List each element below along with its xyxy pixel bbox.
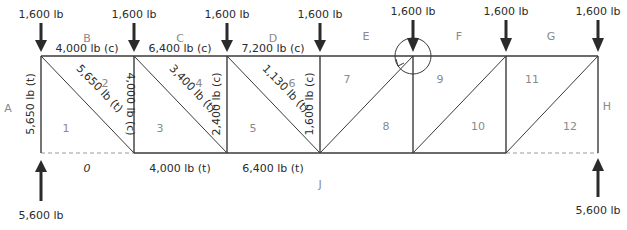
down-arrow-icon (500, 38, 512, 52)
member-force-label: 4,000 lb (c) (55, 42, 118, 55)
load-arrow: 1,600 lb (483, 5, 528, 52)
zone-label: F (456, 30, 462, 43)
member-force-label: 4,000 lb (c) (124, 72, 137, 135)
zone-number: 8 (383, 120, 390, 133)
down-arrow-icon (407, 38, 419, 52)
load-label: 1,600 lb (204, 8, 249, 21)
load-label: 1,600 lb (18, 8, 63, 21)
load-arrow: 1,600 lb (390, 5, 435, 52)
down-arrow-icon (35, 40, 47, 52)
down-arrow-icon (221, 40, 233, 52)
truss-diagram: 1,600 lb 1,600 lb 1,600 lb 1,600 lb 1,60… (0, 0, 627, 230)
load-label: 1,600 lb (483, 5, 528, 18)
load-arrow: 1,600 lb (575, 5, 620, 52)
member-force-label: 6,400 lb (t) (242, 162, 303, 175)
diagonal-member (320, 56, 413, 153)
zone-number: 3 (157, 122, 164, 135)
load-label: 1,600 lb (390, 5, 435, 18)
zone-label: J (317, 178, 321, 191)
diagonal-member (506, 56, 598, 153)
bottom-chord-forces: 0 4,000 lb (t) 6,400 lb (t) (84, 162, 304, 175)
member-force-label: 5,650 lb (t) (74, 62, 126, 115)
load-label: 1,600 lb (111, 8, 156, 21)
zone-label: G (547, 30, 556, 43)
zone-label: A (4, 102, 12, 115)
diagonal-member (413, 56, 506, 153)
zone-number: 12 (563, 120, 577, 133)
reaction-arrow: 5,600 lb (18, 160, 63, 222)
rotation-arrow-icon (396, 59, 404, 66)
zone-number: 11 (525, 73, 539, 86)
down-arrow-icon (592, 38, 604, 52)
zone-label: H (603, 100, 611, 113)
reaction-arrow: 5,600 lb (575, 158, 620, 217)
zone-number: 1 (63, 122, 70, 135)
down-arrow-icon (128, 40, 140, 52)
member-force-label: 5,650 lb (t) (24, 73, 37, 134)
reaction-label: 5,600 lb (18, 209, 63, 222)
zone-label: E (363, 30, 370, 43)
member-force-label: 7,200 lb (c) (241, 42, 304, 55)
zone-number: 10 (471, 120, 485, 133)
top-chord-forces: 4,000 lb (c) 6,400 lb (c) 7,200 lb (c) (55, 42, 304, 55)
load-label: 1,600 lb (575, 5, 620, 18)
zone-number: 5 (250, 122, 257, 135)
zone-number: 9 (437, 73, 444, 86)
member-force-label: 0 (84, 162, 91, 175)
member-force-label: 6,400 lb (c) (148, 42, 211, 55)
down-arrow-icon (314, 40, 326, 52)
member-force-label: 4,000 lb (t) (149, 162, 210, 175)
load-label: 1,600 lb (297, 8, 342, 21)
zone-number: 7 (344, 73, 351, 86)
reaction-label: 5,600 lb (575, 204, 620, 217)
